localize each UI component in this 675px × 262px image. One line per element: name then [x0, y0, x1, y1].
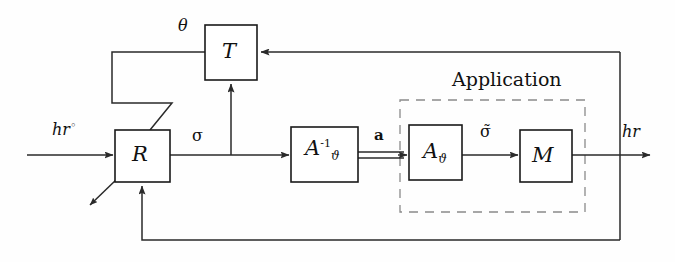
block-R-label: R [132, 144, 148, 165]
wire-output-to-R [142, 186, 620, 240]
block-diagram-figure: T R A-1ϑ Aϑ M Application hr◦ θ σ a σ̃ h… [0, 0, 675, 262]
block-A-inverse-subscript: ϑ [331, 149, 340, 163]
signal-label-hr-reference: hr◦ [52, 120, 76, 138]
block-T-label: T [222, 41, 236, 62]
diagram-canvas [0, 0, 675, 262]
signal-hr-reference-text: hr [52, 120, 70, 139]
block-A-subscript: ϑ [438, 152, 447, 166]
signal-label-hr-output: hr [622, 124, 640, 140]
signal-label-theta: θ [178, 18, 188, 34]
block-A-inverse-base: A [305, 136, 320, 160]
block-A-base: A [423, 139, 438, 163]
block-A-inverse-superscript: -1 [320, 137, 331, 150]
block-A-inverse-label: A-1ϑ [305, 138, 339, 162]
signal-label-a-vector: a [374, 128, 384, 143]
signal-label-sigma: σ [192, 128, 203, 144]
block-M-label: M [532, 145, 554, 166]
signal-label-sigma-tilde: σ̃ [480, 124, 491, 140]
block-A-label: Aϑ [423, 141, 447, 165]
wire-R-external-diagonal [90, 178, 118, 205]
application-group-label: Application [452, 70, 562, 89]
signal-hr-reference-superscript: ◦ [70, 119, 77, 132]
wire-T-to-R-theta [112, 52, 205, 130]
